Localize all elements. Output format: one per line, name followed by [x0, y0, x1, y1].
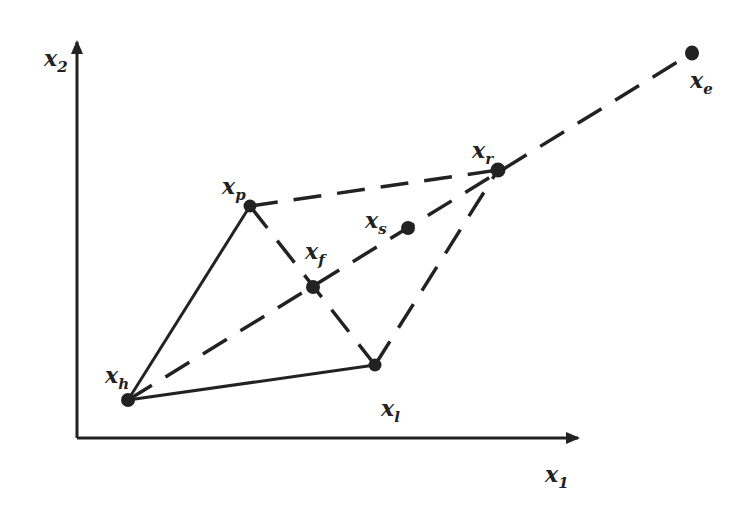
label-r: xr [471, 137, 494, 168]
simplex-diagram: x2 x1 xh xp xl xf xs xr xe [0, 0, 753, 515]
point-f [306, 280, 320, 294]
edge-p-r [250, 170, 498, 206]
label-f: xf [304, 238, 327, 269]
point-l [369, 359, 382, 372]
x1-axis-label: x1 [544, 461, 569, 492]
point-s [401, 221, 415, 235]
point-e [685, 46, 699, 61]
point-h [121, 393, 135, 407]
label-s: xs [364, 207, 387, 238]
label-l: xl [380, 395, 400, 426]
label-e: xe [689, 67, 713, 98]
edge-h-p [128, 206, 250, 400]
label-p: xp [221, 173, 246, 204]
edge-h-l [128, 365, 375, 400]
x2-axis-label: x2 [43, 45, 68, 76]
edge-l-r [375, 170, 498, 365]
label-h: xh [104, 362, 129, 393]
